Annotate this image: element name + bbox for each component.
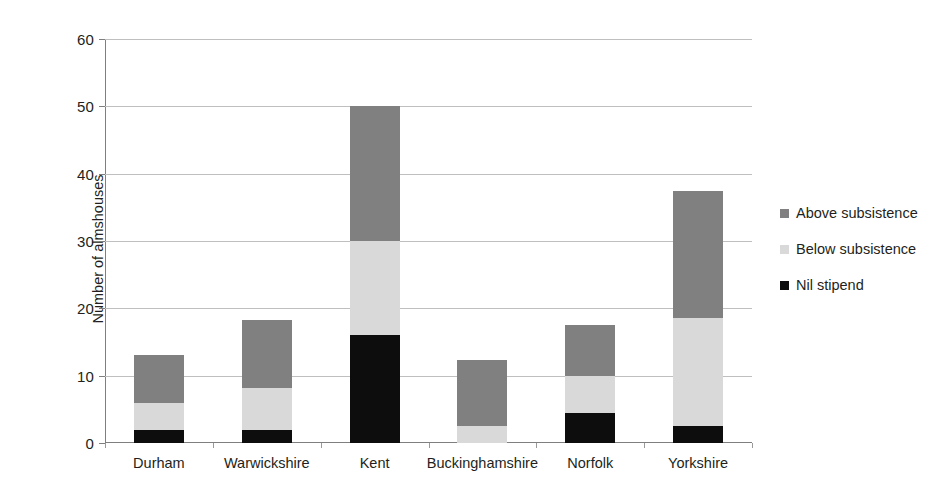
y-tick-label-50: 50 bbox=[77, 98, 94, 115]
legend-swatch-icon bbox=[780, 245, 789, 254]
bar-segment-above-subsistence bbox=[134, 355, 184, 402]
gridline-20 bbox=[105, 308, 752, 309]
gridline-50 bbox=[105, 106, 752, 107]
x-tick-label-norfolk: Norfolk bbox=[567, 455, 613, 471]
bar-segment-below-subsistence bbox=[673, 318, 723, 426]
gridline-30 bbox=[105, 241, 752, 242]
bar-segment-below-subsistence bbox=[457, 426, 507, 443]
y-tick-label-60: 60 bbox=[77, 31, 94, 48]
bar-segment-below-subsistence bbox=[134, 403, 184, 430]
bar-kent: Kent bbox=[350, 39, 400, 443]
plot-area: 0102030405060 DurhamWarwickshireKentBuck… bbox=[105, 39, 752, 443]
x-tick-5 bbox=[644, 443, 645, 448]
chart-legend: Above subsistenceBelow subsistenceNil st… bbox=[780, 205, 940, 313]
legend-item-below-subsistence[interactable]: Below subsistence bbox=[780, 241, 940, 257]
legend-item-above-subsistence[interactable]: Above subsistence bbox=[780, 205, 940, 221]
bar-durham: Durham bbox=[134, 39, 184, 443]
legend-label: Below subsistence bbox=[796, 241, 916, 257]
legend-swatch-icon bbox=[780, 281, 789, 290]
x-tick-label-yorkshire: Yorkshire bbox=[668, 455, 728, 471]
gridline-60 bbox=[105, 39, 752, 40]
bar-segment-below-subsistence bbox=[242, 388, 292, 430]
y-tick-20 bbox=[99, 308, 105, 309]
y-tick-label-10: 10 bbox=[77, 367, 94, 384]
y-tick-50 bbox=[99, 106, 105, 107]
y-tick-label-20: 20 bbox=[77, 300, 94, 317]
bar-segment-nil-stipend bbox=[134, 430, 184, 443]
x-tick-3 bbox=[429, 443, 430, 448]
x-tick-0 bbox=[105, 443, 106, 448]
bar-segment-below-subsistence bbox=[565, 376, 615, 413]
legend-swatch-icon bbox=[780, 209, 789, 218]
y-tick-label-40: 40 bbox=[77, 165, 94, 182]
bar-segment-nil-stipend bbox=[565, 413, 615, 443]
x-tick-2 bbox=[321, 443, 322, 448]
legend-label: Nil stipend bbox=[796, 277, 864, 293]
x-tick-1 bbox=[213, 443, 214, 448]
bar-segment-nil-stipend bbox=[350, 335, 400, 443]
bar-segment-above-subsistence bbox=[565, 325, 615, 376]
x-tick-4 bbox=[536, 443, 537, 448]
bar-segment-nil-stipend bbox=[673, 426, 723, 443]
bar-buckinghamshire: Buckinghamshire bbox=[457, 39, 507, 443]
x-tick-label-buckinghamshire: Buckinghamshire bbox=[427, 455, 538, 471]
x-tick-label-warwickshire: Warwickshire bbox=[224, 455, 310, 471]
bar-segment-above-subsistence bbox=[350, 106, 400, 241]
bar-segment-above-subsistence bbox=[673, 191, 723, 319]
y-tick-label-0: 0 bbox=[85, 435, 94, 452]
bar-segment-above-subsistence bbox=[242, 320, 292, 387]
y-tick-60 bbox=[99, 39, 105, 40]
y-tick-30 bbox=[99, 241, 105, 242]
chart-screenshot: Number of almshouses 0102030405060 Durha… bbox=[0, 0, 943, 498]
bar-yorkshire: Yorkshire bbox=[673, 39, 723, 443]
gridline-10 bbox=[105, 376, 752, 377]
bar-norfolk: Norfolk bbox=[565, 39, 615, 443]
bar-warwickshire: Warwickshire bbox=[242, 39, 292, 443]
bar-segment-above-subsistence bbox=[457, 360, 507, 426]
x-tick-label-durham: Durham bbox=[133, 455, 185, 471]
y-tick-label-30: 30 bbox=[77, 233, 94, 250]
y-tick-10 bbox=[99, 376, 105, 377]
legend-label: Above subsistence bbox=[796, 205, 918, 221]
gridline-40 bbox=[105, 174, 752, 175]
x-tick-label-kent: Kent bbox=[360, 455, 390, 471]
bar-segment-nil-stipend bbox=[242, 430, 292, 443]
y-tick-40 bbox=[99, 174, 105, 175]
bar-segment-below-subsistence bbox=[350, 241, 400, 335]
x-tick-end bbox=[752, 443, 753, 448]
legend-item-nil-stipend[interactable]: Nil stipend bbox=[780, 277, 940, 293]
